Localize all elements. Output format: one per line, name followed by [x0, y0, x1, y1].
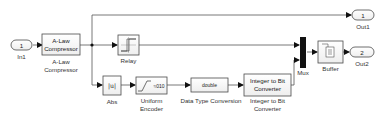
block-label: Encoder: [140, 105, 163, 112]
block-text: Converter: [254, 85, 281, 92]
alaw-compressor-block[interactable]: A-Law Compressor A-Law Compressor: [42, 34, 80, 73]
outport-number: 1: [361, 12, 365, 19]
encoder-text: ≈010: [153, 83, 164, 89]
block-label: Compressor: [44, 66, 78, 73]
line-to-abs[interactable]: [92, 45, 102, 85]
block-text: Integer to Bit: [250, 77, 285, 84]
block-label: Relay: [121, 57, 138, 64]
outport-label: Out2: [355, 60, 369, 67]
block-label: Mux: [297, 69, 310, 76]
abs-block[interactable]: |u| Abs: [103, 76, 121, 105]
outport-label: Out1: [356, 23, 370, 30]
data-type-conversion-block[interactable]: double Data Type Conversion: [180, 78, 242, 104]
block-label: Buffer: [322, 65, 338, 72]
relay-block[interactable]: Relay: [118, 35, 139, 64]
block-label: Converter: [254, 105, 281, 112]
abs-icon: |u|: [108, 82, 116, 90]
outport-out1[interactable]: 1 Out1: [352, 10, 374, 30]
mux-block[interactable]: Mux: [297, 37, 310, 76]
block-text: double: [202, 82, 217, 88]
branch-junction: [90, 43, 93, 46]
mux-bar: [300, 37, 306, 68]
inport-number: 1: [20, 42, 24, 49]
inport-in1[interactable]: 1 In1: [11, 40, 32, 60]
outport-out2[interactable]: 2 Out2: [350, 47, 374, 67]
block-label: Integer to Bit: [250, 97, 285, 104]
block-text: Compressor: [44, 45, 78, 52]
inport-label: In1: [17, 53, 26, 60]
uniform-encoder-block[interactable]: ≈010 Uniform Encoder: [136, 77, 167, 112]
buffer-block[interactable]: Buffer: [318, 41, 343, 72]
block-label: Data Type Conversion: [180, 97, 242, 104]
block-text: A-Law: [52, 37, 70, 44]
block-label: Uniform: [141, 97, 163, 104]
block-label: Abs: [107, 98, 118, 105]
integer-to-bit-converter-block[interactable]: Integer to Bit Converter Integer to Bit …: [244, 74, 291, 112]
block-label: A-Law: [52, 58, 70, 65]
diagram-canvas: 1 In1 A-Law Compressor A-Law Compressor …: [0, 0, 383, 118]
outport-number: 2: [360, 49, 364, 56]
